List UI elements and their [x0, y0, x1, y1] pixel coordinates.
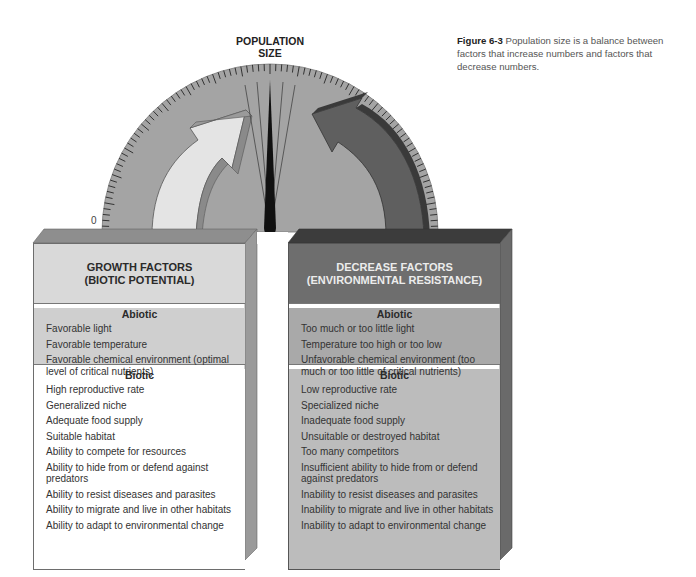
- decrease-biotic-section: Biotic Low reproductive rate Specialized…: [289, 369, 500, 569]
- list-item: Specialized niche: [301, 400, 500, 412]
- list-item: Inadequate food supply: [301, 415, 500, 427]
- gauge-title: POPULATION SIZE: [220, 35, 320, 59]
- growth-abiotic-section: Abiotic Favorable light Favorable temper…: [34, 308, 245, 365]
- list-item: Ability to compete for resources: [46, 446, 245, 458]
- figure-caption: Figure 6-3 Population size is a balance …: [457, 34, 692, 73]
- decrease-factors-box: DECREASE FACTORS (ENVIRONMENTAL RESISTAN…: [288, 243, 500, 570]
- list-item: Inability to migrate and live in other h…: [301, 504, 500, 516]
- list-item: Favorable temperature: [46, 339, 245, 351]
- decrease-abiotic-section: Abiotic Too much or too little light Tem…: [289, 308, 500, 365]
- gauge-title-line1: POPULATION: [220, 35, 320, 47]
- growth-factors-box: GROWTH FACTORS (BIOTIC POTENTIAL) Abioti…: [33, 243, 245, 570]
- decrease-factors-header: DECREASE FACTORS (ENVIRONMENTAL RESISTAN…: [289, 244, 500, 304]
- growth-biotic-section: Biotic High reproductive rate Generalize…: [34, 369, 245, 569]
- gauge-title-line2: SIZE: [220, 47, 320, 59]
- list-item: Ability to resist diseases and parasites: [46, 489, 245, 501]
- decrease-title: DECREASE FACTORS: [336, 261, 453, 274]
- list-item: Too much or too little light: [301, 323, 500, 335]
- list-item: Unsuitable or destroyed habitat: [301, 431, 500, 443]
- list-item: Generalized niche: [46, 400, 245, 412]
- list-item: Inability to resist diseases and parasit…: [301, 489, 500, 501]
- list-item: Ability to adapt to environmental change: [46, 520, 245, 532]
- gauge-zero-label: 0: [91, 215, 97, 226]
- list-item: High reproductive rate: [46, 384, 245, 396]
- list-item: Ability to migrate and live in other hab…: [46, 504, 245, 516]
- list-item: Temperature too high or too low: [301, 339, 500, 351]
- list-item: Suitable habitat: [46, 431, 245, 443]
- growth-title: GROWTH FACTORS: [87, 261, 193, 274]
- growth-subtitle: (BIOTIC POTENTIAL): [85, 274, 195, 287]
- caption-label: Figure 6-3: [457, 35, 503, 46]
- list-item: Ability to hide from or defend against p…: [46, 462, 245, 485]
- section-title: Abiotic: [289, 308, 500, 320]
- list-item: Adequate food supply: [46, 415, 245, 427]
- list-item: Low reproductive rate: [301, 384, 500, 396]
- list-item: Too many competitors: [301, 446, 500, 458]
- list-item: Favorable light: [46, 323, 245, 335]
- section-title: Abiotic: [34, 308, 245, 320]
- growth-factors-header: GROWTH FACTORS (BIOTIC POTENTIAL): [34, 244, 245, 304]
- list-item: Insufficient ability to hide from or def…: [301, 462, 500, 485]
- decrease-subtitle: (ENVIRONMENTAL RESISTANCE): [307, 274, 482, 287]
- list-item: Inability to adapt to environmental chan…: [301, 520, 500, 532]
